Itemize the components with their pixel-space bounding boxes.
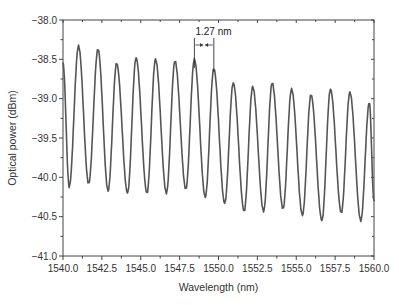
y-tick-label: −39.0 [32,93,58,104]
y-tick-label: −38.0 [32,15,58,26]
x-axis-title: Wavelength (nm) [179,281,259,293]
spectrum-line [63,45,374,221]
spectrum-chart: 1540.01542.51545.01547.51550.01552.51555… [0,0,399,305]
y-axis-title: Optical power (dBm) [6,90,18,186]
annotation-label: 1.27 nm [195,26,231,37]
x-tick-label: 1552.5 [242,263,273,274]
x-tick-label: 1545.0 [125,263,156,274]
x-tick-label: 1557.5 [320,263,351,274]
x-tick-label: 1542.5 [87,263,118,274]
y-tick-label: −41.0 [32,251,58,262]
y-tick-label: −40.5 [32,211,58,222]
spacing-annotation: 1.27 nm [194,26,231,72]
x-tick-label: 1540.0 [48,263,79,274]
x-tick-label: 1560.0 [359,263,390,274]
x-tick-label: 1547.5 [164,263,195,274]
y-tick-label: −39.5 [32,133,58,144]
double-arrow-icon [195,43,212,47]
x-tick-label: 1555.0 [281,263,312,274]
y-tick-label: −38.5 [32,54,58,65]
data-series [63,45,374,221]
x-tick-label: 1550.0 [203,263,234,274]
y-axis-ticks: −38.0−38.5−39.0−39.5−40.0−40.5−41.0 [32,15,374,262]
y-tick-label: −40.0 [32,172,58,183]
